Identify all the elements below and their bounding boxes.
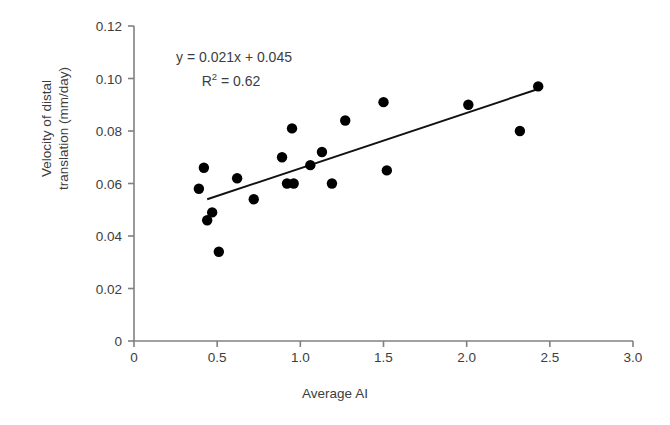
data-point	[463, 100, 473, 110]
data-point	[287, 123, 297, 133]
scatter-plot-figure: Velocity of distal translation (mm/day) …	[0, 0, 670, 425]
trend-line	[207, 89, 538, 199]
data-point	[277, 152, 287, 162]
regression-line	[207, 89, 538, 199]
data-point	[515, 126, 525, 136]
data-point	[305, 160, 315, 170]
data-point	[199, 163, 209, 173]
data-point	[249, 194, 259, 204]
data-point	[194, 184, 204, 194]
plot-canvas	[0, 0, 670, 425]
axes	[128, 26, 633, 347]
data-point	[340, 115, 350, 125]
data-point	[207, 207, 217, 217]
data-point	[327, 178, 337, 188]
data-point	[232, 173, 242, 183]
data-points	[194, 81, 544, 257]
data-point	[533, 81, 543, 91]
data-point	[317, 147, 327, 157]
data-point	[214, 247, 224, 257]
data-point	[378, 97, 388, 107]
data-point	[382, 165, 392, 175]
data-point	[288, 178, 298, 188]
